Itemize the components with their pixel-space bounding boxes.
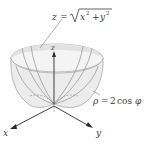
cone-equation-label: z = x 2 + y 2 bbox=[51, 9, 112, 22]
y-axis bbox=[54, 106, 89, 126]
svg-text:+: + bbox=[92, 12, 100, 22]
sphere-equation-label: ρ = 2 cos φ bbox=[92, 96, 142, 106]
x-axis bbox=[14, 106, 54, 127]
svg-text:2: 2 bbox=[86, 10, 90, 16]
svg-text:z: z bbox=[51, 12, 57, 22]
x-axis-label: x bbox=[3, 128, 8, 138]
svg-text:y: y bbox=[99, 12, 106, 22]
svg-text:x: x bbox=[80, 12, 85, 22]
sphere-surface bbox=[11, 44, 103, 108]
z-axis-label: z bbox=[50, 44, 55, 52]
svg-text:cos: cos bbox=[117, 96, 132, 106]
svg-text:ρ: ρ bbox=[92, 96, 99, 106]
svg-text:=: = bbox=[60, 12, 68, 22]
svg-text:=: = bbox=[101, 96, 109, 106]
y-axis-label: y bbox=[95, 128, 102, 138]
svg-text:2: 2 bbox=[106, 10, 110, 16]
x-axis-arrowhead bbox=[10, 124, 17, 129]
y-axis-arrowhead bbox=[86, 122, 93, 128]
spherical-bowl-diagram: z x y z = x 2 + y 2 ρ = 2 cos φ bbox=[0, 0, 151, 147]
svg-text:2: 2 bbox=[110, 96, 116, 106]
svg-text:φ: φ bbox=[135, 96, 142, 106]
